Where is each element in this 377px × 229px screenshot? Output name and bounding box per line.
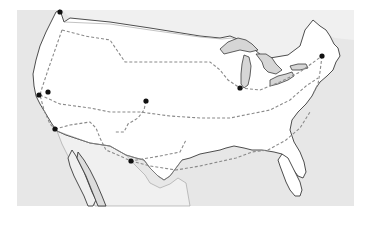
map-canvas (0, 0, 377, 229)
stop-marker[interactable] (319, 53, 324, 58)
stop-marker[interactable] (57, 9, 62, 14)
stop-marker[interactable] (36, 92, 41, 97)
stop-marker[interactable] (237, 85, 242, 90)
stop-marker[interactable] (143, 98, 148, 103)
stop-marker[interactable] (52, 126, 57, 131)
stop-marker[interactable] (128, 158, 133, 163)
stop-marker[interactable] (45, 89, 50, 94)
route-map (0, 0, 377, 229)
